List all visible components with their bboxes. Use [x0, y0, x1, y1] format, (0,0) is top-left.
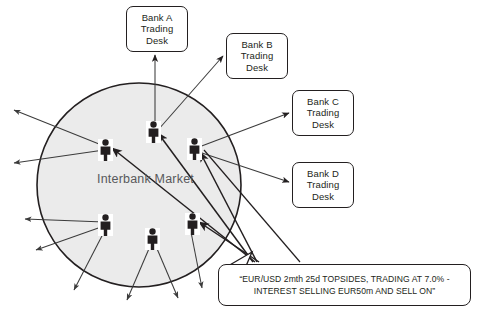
bank-d-trading-desk-box[interactable]: Bank D Trading Desk — [292, 162, 354, 208]
bank-a-line-1: Bank A — [142, 12, 173, 23]
interbank-market-label: Interbank Market — [97, 172, 194, 186]
bank-a-trading-desk-box[interactable]: Bank A Trading Desk — [126, 6, 188, 52]
bank-c-trading-desk-box[interactable]: Bank C Trading Desk — [292, 90, 354, 136]
trader-icon-right-upper — [187, 138, 202, 160]
quote-callout-box[interactable]: “EUR/USD 2mth 25d TOPSIDES, TRADING AT 7… — [218, 264, 471, 306]
bank-c-line-3: Desk — [312, 119, 334, 130]
bank-a-line-3: Desk — [146, 35, 168, 46]
bank-d-line-2: Trading — [307, 179, 340, 190]
diagram-canvas: Interbank Market Bank A Trading Desk Ban… — [0, 0, 478, 318]
quote-line-2: INTEREST SELLING EUR50m AND SELL ON” — [254, 285, 435, 298]
bank-c-line-2: Trading — [307, 107, 340, 118]
bank-a-line-2: Trading — [141, 23, 174, 34]
bank-d-line-1: Bank D — [307, 168, 339, 179]
bank-b-line-3: Desk — [246, 62, 268, 73]
trader-icon-top-center — [146, 121, 161, 143]
bank-b-line-1: Bank B — [241, 39, 272, 50]
trader-icon-bottom-center — [145, 228, 160, 250]
bank-c-line-1: Bank C — [307, 96, 339, 107]
quote-line-1: “EUR/USD 2mth 25d TOPSIDES, TRADING AT 7… — [239, 273, 449, 286]
trader-icon-left-upper — [98, 139, 113, 161]
bank-b-line-2: Trading — [241, 50, 274, 61]
trader-icon-left-lower — [98, 214, 113, 236]
trader-icon-right-lower — [185, 213, 200, 235]
bank-b-trading-desk-box[interactable]: Bank B Trading Desk — [226, 33, 288, 79]
bank-d-line-3: Desk — [312, 191, 334, 202]
